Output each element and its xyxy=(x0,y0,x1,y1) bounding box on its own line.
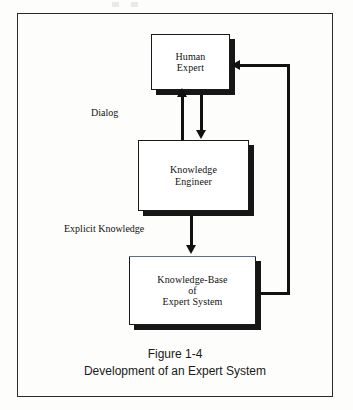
dialog-down-connector-line xyxy=(200,90,203,132)
node-human-expert-line2: Expert xyxy=(176,62,206,73)
figure-caption-number: Figure 1-4 xyxy=(30,346,320,363)
feedback-loop-segment-vertical xyxy=(287,64,290,295)
figure-caption-title: Development of an Expert System xyxy=(30,363,320,380)
node-human-expert-line1: Human xyxy=(176,51,206,62)
explicit-knowledge-arrowhead-icon xyxy=(186,245,196,254)
node-knowledge-engineer-line2: Engineer xyxy=(170,176,217,187)
dialog-down-arrowhead-icon xyxy=(196,130,206,139)
node-knowledge-base-line2: of xyxy=(157,285,227,296)
dialog-up-connector-line xyxy=(181,96,184,140)
feedback-loop-segment-right xyxy=(256,292,290,295)
knowledge-base-top-rule xyxy=(129,256,256,257)
node-knowledge-base-text: Knowledge-Base of Expert System xyxy=(157,274,227,308)
node-human-expert-text: Human Expert xyxy=(176,51,206,73)
figure-root: Human Expert Knowledge Engineer Knowledg… xyxy=(0,0,353,410)
node-knowledge-engineer[interactable]: Knowledge Engineer xyxy=(138,140,249,211)
feedback-loop-segment-top xyxy=(240,64,289,67)
explicit-knowledge-connector-line xyxy=(190,211,193,247)
scan-artifact xyxy=(112,2,119,7)
node-human-expert[interactable]: Human Expert xyxy=(151,34,230,90)
scan-artifact xyxy=(131,2,138,7)
node-knowledge-base-line1: Knowledge-Base xyxy=(157,274,227,285)
figure-caption: Figure 1-4 Development of an Expert Syst… xyxy=(30,346,320,379)
feedback-loop-arrowhead-icon xyxy=(231,60,240,70)
node-knowledge-base-line3: Expert System xyxy=(157,296,227,307)
edge-label-explicit-knowledge: Explicit Knowledge xyxy=(64,223,144,234)
dialog-up-arrowhead-icon xyxy=(177,88,187,97)
edge-label-dialog: Dialog xyxy=(91,107,118,118)
node-knowledge-engineer-line1: Knowledge xyxy=(170,164,217,175)
node-knowledge-engineer-text: Knowledge Engineer xyxy=(170,164,217,186)
node-knowledge-base[interactable]: Knowledge-Base of Expert System xyxy=(129,256,256,325)
